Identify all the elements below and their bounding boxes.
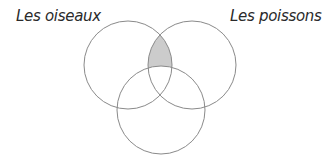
venn-diagram [0, 0, 324, 158]
